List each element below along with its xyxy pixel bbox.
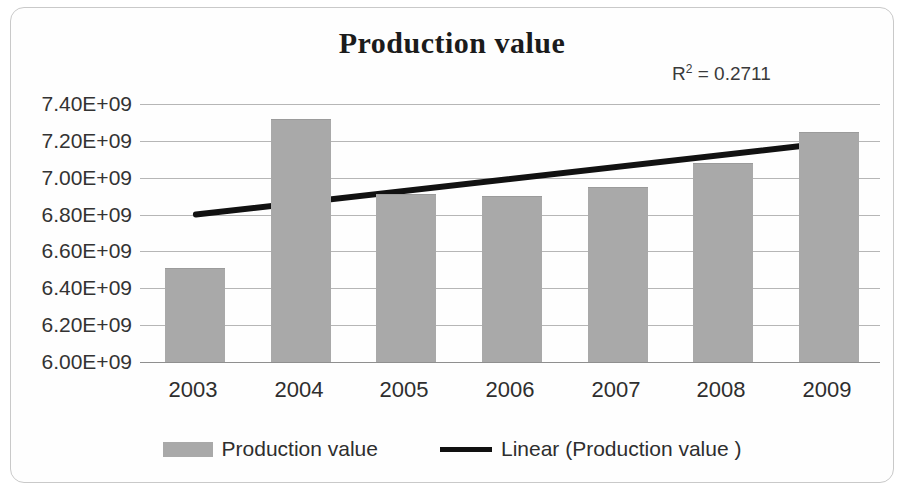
chart-title: Production value <box>0 26 904 60</box>
x-axis-tick-label-2003: 2003 <box>150 377 236 403</box>
legend-bar-swatch-icon <box>163 442 213 457</box>
legend-item-production-value[interactable]: Production value <box>163 437 378 461</box>
bar-2003[interactable] <box>165 268 225 362</box>
y-axis-tick-label: 7.20E+09 <box>12 130 132 151</box>
r-squared-symbol: R <box>672 63 686 84</box>
legend-label-linear-trendline: Linear (Production value ) <box>501 437 741 461</box>
legend-line-swatch-icon <box>440 447 492 452</box>
bar-2007[interactable] <box>588 187 648 362</box>
r-squared-annotation: R2 = 0.2711 <box>672 62 771 85</box>
r-squared-value: = 0.2711 <box>692 63 770 84</box>
plot-area <box>140 104 880 362</box>
x-axis-line <box>140 362 880 363</box>
y-axis-tick-label: 6.00E+09 <box>12 351 132 372</box>
chart-legend: Production value Linear (Production valu… <box>0 437 904 461</box>
x-axis-tick-label-2008: 2008 <box>678 377 764 403</box>
y-axis-tick-label: 6.60E+09 <box>12 240 132 261</box>
y-axis-tick-label: 7.00E+09 <box>12 167 132 188</box>
y-axis-tick-label: 7.40E+09 <box>12 93 132 114</box>
bar-2004[interactable] <box>271 119 331 362</box>
bar-2006[interactable] <box>482 196 542 362</box>
x-axis-tick-label-2005: 2005 <box>361 377 447 403</box>
x-axis-tick-label-2009: 2009 <box>784 377 870 403</box>
y-axis-labels: 7.40E+097.20E+097.00E+096.80E+096.60E+09… <box>12 0 132 491</box>
bar-2008[interactable] <box>693 163 753 362</box>
legend-item-linear-trendline[interactable]: Linear (Production value ) <box>440 437 741 461</box>
bar-2009[interactable] <box>799 132 859 362</box>
x-axis-tick-label-2007: 2007 <box>573 377 659 403</box>
bar-2005[interactable] <box>376 194 436 362</box>
y-axis-tick-label: 6.80E+09 <box>12 204 132 225</box>
y-axis-tick-label: 6.20E+09 <box>12 314 132 335</box>
x-axis-tick-label-2004: 2004 <box>256 377 342 403</box>
y-axis-tick-label: 6.40E+09 <box>12 277 132 298</box>
x-axis-labels: 2003200420052006200720082009 <box>140 377 880 407</box>
x-axis-tick-label-2006: 2006 <box>467 377 553 403</box>
legend-label-production-value: Production value <box>222 437 378 461</box>
